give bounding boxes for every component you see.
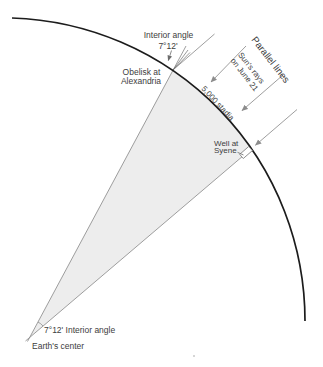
- obelisk-label-line1: Obelisk at: [123, 67, 161, 77]
- eratosthenes-diagram: Interior angle 7°12' Obelisk at Alexandr…: [0, 0, 323, 367]
- interior-angle-leader-arrow: [168, 51, 171, 61]
- well-label-line2: Syene: [214, 146, 237, 155]
- diagram-canvas: Interior angle 7°12' Obelisk at Alexandr…: [0, 0, 323, 367]
- interior-angle-top-label-line2: 7°12': [158, 41, 178, 51]
- interior-angle-top-label-line1: Interior angle: [144, 30, 194, 40]
- interior-angle-bottom-label: 7°12' Interior angle: [44, 325, 115, 335]
- obelisk-label-line2: Alexandria: [121, 76, 161, 86]
- stray-mark: [193, 355, 195, 357]
- obelisk-angle-fan-line-1: [173, 50, 188, 70]
- sun-ray-arrow-syene: [256, 110, 298, 146]
- earths-center-label: Earth's center: [32, 341, 84, 351]
